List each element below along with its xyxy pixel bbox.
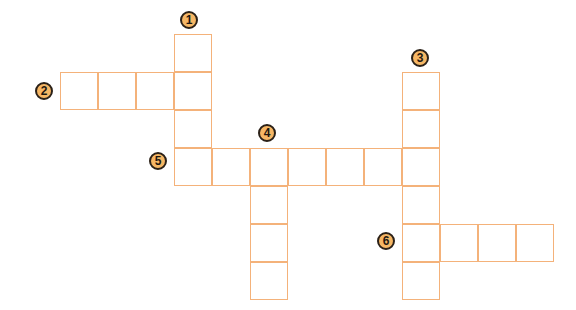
crossword-cell[interactable] [364, 148, 402, 186]
crossword-cell[interactable] [440, 224, 478, 262]
clue-number-badge-3: 3 [411, 49, 429, 67]
crossword-cell[interactable] [174, 72, 212, 110]
crossword-cell[interactable] [516, 224, 554, 262]
crossword-cell[interactable] [250, 148, 288, 186]
clue-number-badge-2: 2 [35, 82, 53, 100]
crossword-cell[interactable] [174, 34, 212, 72]
crossword-cell[interactable] [174, 148, 212, 186]
crossword-cell[interactable] [250, 186, 288, 224]
crossword-cell[interactable] [174, 110, 212, 148]
crossword-cell[interactable] [212, 148, 250, 186]
clue-number-badge-5: 5 [149, 152, 167, 170]
crossword-cell[interactable] [402, 262, 440, 300]
clue-number-badge-1: 1 [180, 11, 198, 29]
crossword-cell[interactable] [402, 224, 440, 262]
crossword-cell[interactable] [478, 224, 516, 262]
crossword-cell[interactable] [402, 110, 440, 148]
crossword-cell[interactable] [60, 72, 98, 110]
clue-number-badge-6: 6 [377, 232, 395, 250]
crossword-cell[interactable] [98, 72, 136, 110]
crossword-grid: 123456 [0, 0, 576, 310]
crossword-cell[interactable] [288, 148, 326, 186]
crossword-cell[interactable] [402, 186, 440, 224]
crossword-cell[interactable] [402, 72, 440, 110]
crossword-cell[interactable] [326, 148, 364, 186]
crossword-cell[interactable] [402, 148, 440, 186]
crossword-cell[interactable] [250, 262, 288, 300]
crossword-cell[interactable] [250, 224, 288, 262]
clue-number-badge-4: 4 [258, 124, 276, 142]
crossword-cell[interactable] [136, 72, 174, 110]
